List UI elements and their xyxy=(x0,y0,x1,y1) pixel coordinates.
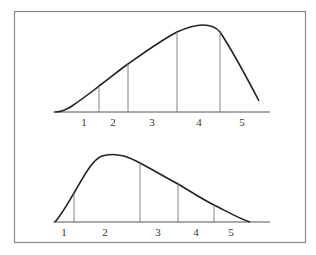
top-region-label-3: 3 xyxy=(149,116,155,128)
top-distribution-panel: 1 2 3 4 5 xyxy=(53,25,270,128)
top-curve xyxy=(55,25,259,112)
bottom-region-label-1: 1 xyxy=(61,226,67,238)
top-region-label-4: 4 xyxy=(196,116,202,128)
figure-frame xyxy=(15,12,306,243)
bottom-region-label-4: 4 xyxy=(193,226,199,238)
bottom-region-label-3: 3 xyxy=(155,226,161,238)
top-region-label-5: 5 xyxy=(239,116,245,128)
top-region-label-1: 1 xyxy=(81,116,87,128)
bottom-curve xyxy=(55,155,250,223)
diagram-canvas: 1 2 3 4 5 1 2 3 4 5 xyxy=(0,0,316,255)
bottom-region-label-5: 5 xyxy=(228,226,234,238)
bottom-region-label-2: 2 xyxy=(102,226,108,238)
bottom-distribution-panel: 1 2 3 4 5 xyxy=(53,155,270,239)
top-region-label-2: 2 xyxy=(110,116,116,128)
